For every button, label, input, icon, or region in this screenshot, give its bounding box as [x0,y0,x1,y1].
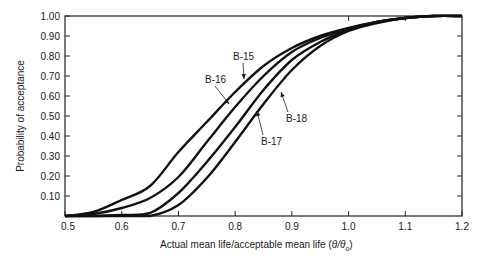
curve-b-18 [65,16,462,216]
y-tick-label: 0.60 [41,91,61,102]
x-tick-label: 0.8 [228,221,242,232]
x-axis-title-theta: θ/θ [332,239,346,250]
arrowhead-icon [281,92,285,97]
curve-b-17 [65,16,462,216]
x-tick-label: 0.5 [61,221,75,232]
y-axis-title: Probability of acceptance [15,60,26,172]
x-tick-label: 1.2 [455,221,469,232]
x-tick-label: 0.9 [285,221,299,232]
y-tick-label: 1.00 [41,11,61,22]
plot-frame [65,16,462,216]
oc-curves [65,16,462,216]
y-tick-label: 0.90 [41,31,61,42]
x-axis-title-close: ) [349,239,352,250]
curve-b-16 [65,16,462,216]
y-tick-label: 0.50 [41,111,61,122]
curve-b-15 [65,16,462,216]
y-tick-label: 0.30 [41,151,61,162]
x-tick-label: 0.6 [115,221,129,232]
curve-label-b-18: B-18 [286,113,308,124]
y-tick-label: 0.70 [41,71,61,82]
y-tick-label: 0.40 [41,131,61,142]
x-tick-label: 1.1 [398,221,412,232]
curve-label-b-16: B-16 [205,74,227,85]
y-tick-label: 0.20 [41,171,61,182]
x-axis-title-main: Actual mean life/acceptable mean life ( [160,239,332,250]
acceptance-probability-chart: 0.100.200.300.400.500.600.700.800.901.00… [0,0,477,259]
y-tick-label: 0.10 [41,191,61,202]
x-axis-title: Actual mean life/acceptable mean life (θ… [160,239,353,252]
arrowhead-icon [241,74,245,79]
x-tick-label: 1.0 [342,221,356,232]
curve-label-b-15: B-15 [233,51,255,62]
y-tick-label: 0.80 [41,51,61,62]
x-tick-label: 0.7 [171,221,185,232]
curve-label-b-17: B-17 [261,136,283,147]
